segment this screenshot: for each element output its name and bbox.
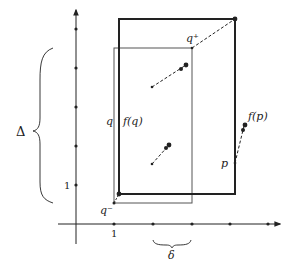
f-q-label: f(q) (122, 115, 143, 128)
delta-upper-label: Δ (16, 124, 25, 139)
q-minus-label: q⁻ (100, 204, 113, 217)
diagram-canvas: 1 1 q⁺ q f(q) q⁻ p f(p) Δ δ (0, 0, 290, 270)
x-tick-label-1: 1 (111, 228, 117, 239)
y-tick-label-1: 1 (64, 180, 70, 191)
delta-lower-label: δ (168, 249, 175, 262)
delta-lower-brace (153, 240, 191, 248)
q-plus-label: q⁺ (186, 32, 199, 45)
thick-rectangle (119, 19, 235, 194)
f-p-label: f(p) (247, 110, 268, 123)
q-label: q (106, 115, 113, 128)
p-label: p (221, 157, 228, 170)
delta-brace (33, 48, 53, 203)
